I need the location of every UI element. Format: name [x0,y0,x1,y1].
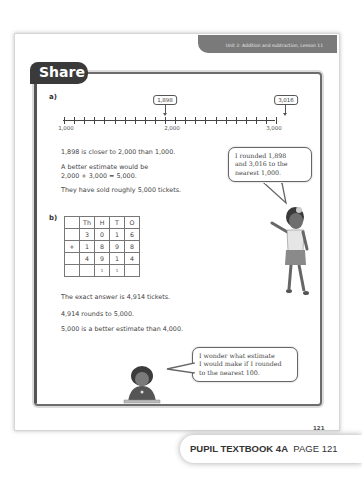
unit-header-tab: Unit 2: Addition and subtraction, Lesson… [198,35,337,53]
speech-line: nearest 1,000. [235,169,305,177]
table-cell [65,253,80,265]
table-cell [65,265,80,277]
boy-reading-illustration [118,364,166,406]
table-cell: 9 [95,253,110,265]
speech-line: I rounded 1,898 [235,152,305,160]
text-line: 1,898 is closer to 2,000 than 1,000. [61,148,175,157]
number-line-tick [195,117,196,124]
number-line-mid: 2,000 [164,125,180,131]
speech-bubble-rounded: I rounded 1,898 and 3,016 to the nearest… [228,147,312,182]
table-header-row: Th H T O [65,217,140,229]
table-cell [65,217,80,229]
speech-line: I wonder what estimate [199,352,291,360]
table-cell: 4 [80,253,95,265]
number-line-tick [226,117,227,124]
number-line-tick [185,117,186,124]
table-cell: 1 [95,265,110,277]
text-line: The exact answer is 4,914 tickets. [61,293,170,302]
table-row: + 1 8 9 8 [65,241,140,253]
number-line-tick [236,117,237,124]
panel-accent-bar [34,80,37,403]
number-line-tick [125,117,126,124]
speech-line: I would make if I rounded [199,360,291,368]
number-line-marker-1898: 1,898 [153,95,177,105]
table-cell: 8 [125,241,140,253]
table-cell: + [65,241,80,253]
table-cell: O [125,217,140,229]
number-line-tick [266,117,267,124]
table-cell: 0 [95,229,110,241]
footer-page-label: PAGE 121 [293,443,337,454]
unit-title: Unit 2: Addition and subtraction, Lesson… [226,43,323,48]
text-line: 5,000 is a better estimate than 4,000. [61,325,183,334]
speech-tail-icon [262,183,288,205]
part-a-label: a) [49,93,57,101]
speech-line: to the nearest 100. [199,369,291,377]
table-row: 3 0 1 6 [65,229,140,241]
table-cell: H [95,217,110,229]
number-line-tick [175,117,176,124]
number-line-tick [165,117,166,124]
number-line-tick [256,117,257,124]
text-line: 4,914 rounds to 5,000. [61,310,134,319]
table-cell: 3 [80,229,95,241]
number-line-tick [135,117,136,124]
number-line-tick [216,117,217,124]
table-cell: T [110,217,125,229]
table-cell: 1 [80,241,95,253]
number-line-tick [276,117,277,124]
table-cell: 1 [110,253,125,265]
text-line: They have sold roughly 5,000 tickets. [61,186,181,195]
number-line-tick [145,117,146,124]
number-line-tick [104,117,105,124]
table-cell [65,229,80,241]
speech-line: and 3,016 to the [235,160,305,168]
table-row: 4 9 1 4 [65,253,140,265]
share-tab: Share [30,62,88,84]
table-cell: 6 [125,229,140,241]
page-number: 121 [313,425,324,431]
number-line-tick [155,117,156,124]
text-line: 2,000 + 3,000 = 5,000. [61,172,137,181]
number-line-tick [94,117,95,124]
speech-tail-icon [166,362,196,376]
section-title: Share [39,64,85,80]
arrow-down-icon [285,105,286,114]
number-line-tick [205,117,206,124]
girl-character-illustration [270,203,320,305]
table-cell: 9 [110,241,125,253]
table-cell: 4 [125,253,140,265]
table-cell: 8 [95,241,110,253]
table-cell: 1 [110,229,125,241]
speech-bubble-wonder: I wonder what estimate I would make if I… [192,347,298,382]
number-line-tick [115,117,116,124]
text-line: A better estimate would be [61,163,148,172]
number-line-start: 1,000 [58,125,74,131]
number-line-end: 3,000 [266,125,282,131]
number-line-tick [84,117,85,124]
number-line-tick [246,117,247,124]
number-line-tick [74,117,75,124]
number-line-tick [64,117,65,124]
footer-book-title: PUPIL TEXTBOOK 4A [190,443,288,454]
table-cell [80,265,95,277]
arrow-down-icon [165,105,166,114]
footer-badge: PUPIL TEXTBOOK 4A PAGE 121 [180,435,362,463]
part-b-label: b) [49,214,57,222]
number-line-marker-3016: 3,016 [274,95,298,105]
table-row-carries: 1 1 [65,265,140,277]
table-cell: 1 [110,265,125,277]
table-cell [125,265,140,277]
place-value-table: Th H T O 3 0 1 6 + 1 8 9 8 4 9 1 4 1 1 [64,216,140,277]
table-cell: Th [80,217,95,229]
